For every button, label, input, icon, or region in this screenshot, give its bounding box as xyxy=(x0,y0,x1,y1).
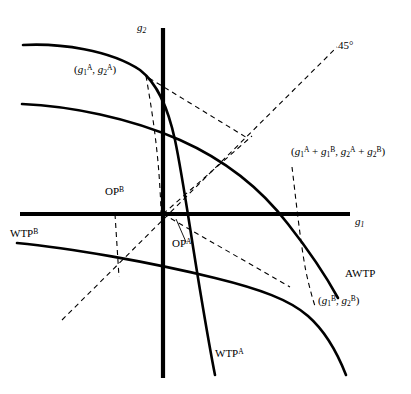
curve-wtp-a xyxy=(23,45,215,375)
label-op-b: OPB xyxy=(105,186,124,197)
x-axis-label: g1 xyxy=(355,216,364,228)
indifference-curve-figure: g2 g1 45° (g1A, g2A) (g1A + g1B, g2A + g… xyxy=(0,0,411,394)
line-dropper-from-point-A xyxy=(146,76,161,214)
label-awtp: AWTP xyxy=(345,268,375,279)
label-wtp-b: WTPB xyxy=(10,228,38,239)
figure-canvas xyxy=(0,0,411,394)
label-point-a: (g1A, g2A) xyxy=(74,64,116,77)
label-op-a: OPA xyxy=(172,238,191,249)
curve-wtp-b xyxy=(17,243,346,375)
line-ray-lower-left xyxy=(119,214,163,277)
line-ray-to-point-B xyxy=(163,214,290,287)
label-wtp-a: WTPA xyxy=(215,348,244,359)
label-point-sum: (g1A + g1B, g2A + g2B) xyxy=(291,146,385,159)
line-dropper-from-sum-point xyxy=(292,167,315,306)
label-point-b: (g1B, g2B) xyxy=(318,295,359,308)
label-45-degree: 45° xyxy=(338,40,353,51)
y-axis-label: g2 xyxy=(137,22,146,34)
